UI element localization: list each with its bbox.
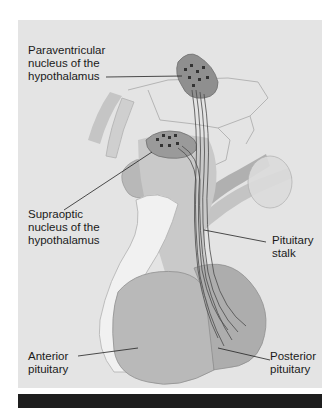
label-line: Posterior <box>270 350 316 363</box>
label-posterior-pituitary: Posterior pituitary <box>270 350 316 376</box>
label-line: pituitary <box>270 363 316 376</box>
paraventricular-nucleus <box>177 54 218 98</box>
label-pituitary-stalk: Pituitary stalk <box>272 234 314 260</box>
label-line: stalk <box>272 247 314 260</box>
label-line: hypothalamus <box>28 234 100 247</box>
label-line: nucleus of the <box>28 221 100 234</box>
label-line: Anterior <box>28 350 68 363</box>
caption-bar <box>18 394 322 408</box>
label-paraventricular: Paraventricular nucleus of the hypothala… <box>28 44 105 83</box>
label-anterior-pituitary: Anterior pituitary <box>28 350 68 376</box>
label-line: hypothalamus <box>28 70 105 83</box>
label-line: Supraoptic <box>28 208 100 221</box>
label-supraoptic: Supraoptic nucleus of the hypothalamus <box>28 208 100 247</box>
label-line: pituitary <box>28 363 68 376</box>
supraoptic-nucleus <box>146 131 197 158</box>
label-line: Paraventricular <box>28 44 105 57</box>
label-line: nucleus of the <box>28 57 105 70</box>
diagram-panel: Paraventricular nucleus of the hypothala… <box>18 20 322 388</box>
anterior-pituitary-shape <box>113 271 214 384</box>
label-line: Pituitary <box>272 234 314 247</box>
